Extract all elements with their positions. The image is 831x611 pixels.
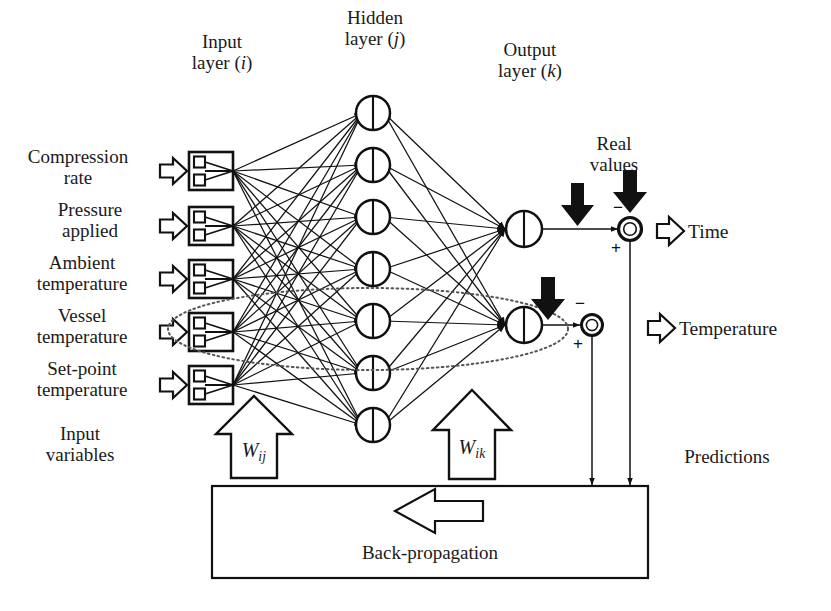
- input-box-ambient-temperature: [189, 260, 233, 298]
- hidden-node-3: [356, 200, 390, 234]
- input-box-compression-rate: [189, 152, 233, 190]
- weight-arrow-wik: [433, 390, 511, 479]
- hidden-node-7: [356, 408, 390, 442]
- weight-label-wik: Wik: [459, 437, 486, 459]
- output-layer-title: Outputlayer (k): [498, 40, 562, 81]
- hidden-layer-nodes: [356, 96, 390, 442]
- hidden-layer-title: Hiddenlayer (j): [345, 8, 406, 49]
- neural-network-diagram: Inputlayer (i) Hiddenlayer (j) Outputlay…: [0, 0, 831, 611]
- predictions-caption: Predictions: [684, 447, 770, 468]
- weight-label-wij: Wij: [242, 440, 267, 462]
- minus-sign-temperature: −: [575, 294, 585, 314]
- summation-node-temperature: [582, 315, 603, 336]
- output-layer-nodes: [506, 211, 542, 343]
- hidden-node-2: [356, 148, 390, 182]
- hidden-node-4: [356, 252, 390, 286]
- output-label-temperature: Temperature: [679, 318, 777, 339]
- hidden-node-1: [356, 96, 390, 130]
- output-node-time: [506, 211, 542, 247]
- real-values-caption: Realvalues: [590, 134, 639, 175]
- input-layer-title: Inputlayer (i): [192, 32, 253, 73]
- plus-sign-temperature: +: [573, 334, 583, 354]
- weights-input-hidden: [233, 113, 362, 425]
- input-label-compression-rate: Compressionrate: [28, 147, 128, 188]
- input-label-pressure-applied: Pressureapplied: [58, 200, 122, 241]
- plus-sign-time: +: [611, 238, 621, 258]
- weight-arrow-wij: [216, 396, 292, 478]
- input-box-vessel-temperature: [189, 313, 233, 351]
- error-feedback-lines: [592, 241, 630, 485]
- backpropagation-label: Back-propagation: [362, 543, 498, 564]
- minus-sign-time: −: [613, 198, 623, 218]
- input-box-pressure-applied: [189, 207, 233, 245]
- hidden-node-6: [356, 356, 390, 390]
- hidden-node-5: [356, 304, 390, 338]
- input-label-vessel-temperature: Vesseltemperature: [37, 306, 128, 347]
- input-label-ambient-temperature: Ambienttemperature: [37, 253, 128, 294]
- output-node-temperature: [506, 307, 542, 343]
- weights-hidden-output: [384, 113, 505, 425]
- input-label-set-point-temperature: Set-pointtemperature: [37, 359, 128, 400]
- real-value-arrow-1: [561, 183, 594, 226]
- input-node-boxes: [189, 152, 233, 404]
- output-arrow-time: [657, 217, 684, 245]
- summation-node-time: [619, 218, 642, 241]
- output-label-time: Time: [688, 221, 728, 242]
- output-arrow-temperature: [648, 314, 675, 342]
- input-feed-arrows: [160, 158, 187, 398]
- input-variables-caption: Inputvariables: [46, 424, 115, 465]
- input-box-set-point-temperature: [189, 366, 233, 404]
- error-summation-nodes: [582, 218, 642, 336]
